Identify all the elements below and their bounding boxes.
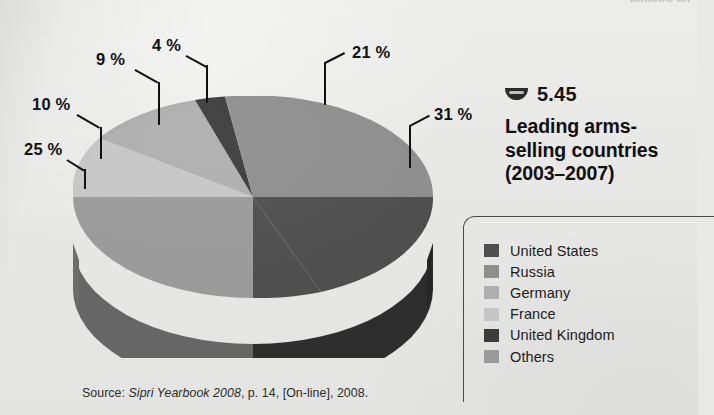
legend-swatch-icon <box>484 286 499 299</box>
legend: United StatesRussiaGermanyFranceUnited K… <box>484 240 699 367</box>
label-germany-pct: 9 % <box>96 50 125 69</box>
leader-line-germany <box>135 69 159 83</box>
figure-title-line-3: (2003–2007) <box>505 162 705 186</box>
label-russia-pct: 21 % <box>352 43 390 62</box>
legend-label: France <box>510 306 556 322</box>
leader-line-russia <box>325 52 345 64</box>
figure-title: Leading arms- selling countries (2003–20… <box>505 115 705 186</box>
legend-label: United Kingdom <box>510 327 615 343</box>
figure-number: 5.45 <box>537 83 577 106</box>
legend-item: United States <box>484 240 699 261</box>
leader-line-russia-stem <box>324 62 326 105</box>
label-united-states-pct: 31 % <box>434 105 472 124</box>
legend-swatch-icon <box>484 244 499 257</box>
legend-swatch-icon <box>484 350 499 363</box>
source-prefix: Source: <box>82 386 129 400</box>
legend-swatch-icon <box>484 329 499 342</box>
figure-caption-panel: 5.45 Leading arms- selling countries (20… <box>505 82 705 186</box>
legend-item: Others <box>484 346 699 367</box>
leader-line-united-kingdom-stem <box>206 65 208 103</box>
label-united-kingdom-pct: 4 % <box>152 36 181 55</box>
leader-line-united-states-stem <box>409 125 411 168</box>
legend-label: Russia <box>510 264 555 280</box>
legend-swatch-icon <box>484 265 499 278</box>
leader-line-france-stem <box>100 127 102 159</box>
legend-item: United Kingdom <box>484 325 699 346</box>
figure-number-row: 5.45 <box>505 82 705 106</box>
pie-3d-top-face <box>73 96 433 298</box>
figure-title-line-2: selling countries <box>505 139 705 163</box>
legend-item: France <box>484 304 699 325</box>
source-title: Sipri Yearbook 2008 <box>129 386 241 400</box>
legend-item: Germany <box>484 282 699 303</box>
figure-title-line-1: Leading arms- <box>505 115 705 139</box>
leader-line-germany-stem <box>158 82 160 125</box>
pie-chart <box>73 96 433 360</box>
legend-label: Germany <box>510 285 570 301</box>
source-suffix: , p. 14, [On-line], 2008. <box>241 386 368 400</box>
half-circle-bowl-icon <box>505 88 528 100</box>
legend-label: United States <box>510 243 598 259</box>
label-france-pct: 10 % <box>32 95 70 114</box>
legend-label: Others <box>510 349 554 365</box>
source-note: Source: Sipri Yearbook 2008, p. 14, [On-… <box>82 386 368 400</box>
leader-line-united-kingdom <box>186 55 207 67</box>
leader-line-others-stem <box>84 169 86 189</box>
legend-item: Russia <box>484 261 699 282</box>
legend-swatch-icon <box>484 308 499 321</box>
label-others-pct: 25 % <box>24 140 62 159</box>
